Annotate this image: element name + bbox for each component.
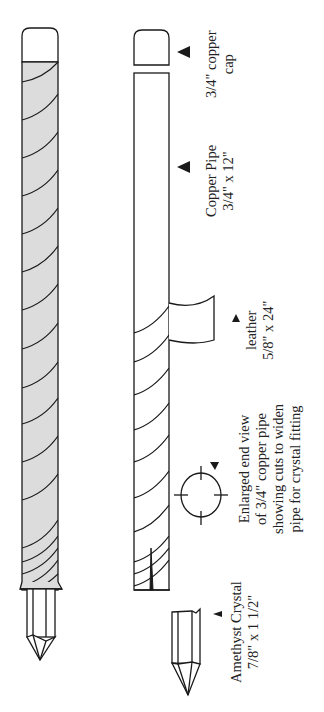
amethyst-crystal	[172, 609, 200, 695]
leather-strip	[169, 296, 214, 343]
leather-label-line1: leather	[243, 301, 260, 360]
assembled-cap	[22, 28, 58, 62]
crystal-pointer-arrow	[213, 611, 222, 617]
end-view-label-line3: showing cuts to widen	[270, 404, 287, 534]
crystal-label-line2: 7/8" x 1 1/2"	[245, 581, 262, 683]
cap-label-line2: cap	[220, 30, 237, 98]
end-view-label-line2: of 3/4" copper pipe	[253, 404, 270, 534]
copper-cap	[134, 30, 169, 65]
end-view-pointer-arrow	[210, 462, 219, 470]
cap-pointer-arrow	[177, 46, 190, 58]
leather-label-line2: 5/8" x 24"	[260, 301, 277, 360]
assembled-crystal	[27, 589, 55, 660]
leather-label: leather 5/8" x 24"	[243, 301, 277, 360]
end-view-label: Enlarged end view of 3/4" copper pipe sh…	[236, 404, 304, 534]
pipe-label: Copper Pipe 3/4" x 12"	[203, 145, 237, 217]
pipe-pointer-arrow	[177, 161, 190, 173]
crystal-label: Amethyst Crystal 7/8" x 1 1/2"	[228, 581, 262, 683]
leather-pointer-arrow	[232, 314, 240, 322]
assembled-wrapped-pipe	[22, 62, 58, 590]
cap-label: 3/4" copper cap	[203, 30, 237, 98]
pipe-label-line1: Copper Pipe	[203, 145, 220, 217]
exploded-view	[134, 30, 228, 695]
end-view-label-line1: Enlarged end view	[236, 404, 253, 534]
crystal-label-line1: Amethyst Crystal	[228, 581, 245, 683]
cap-label-line1: 3/4" copper	[203, 30, 220, 98]
pipe-end-view	[174, 466, 228, 525]
pipe-label-line2: 3/4" x 12"	[220, 145, 237, 217]
assembled-wand	[20, 28, 62, 660]
end-view-label-line4: pipe for crystal fitting	[287, 404, 304, 534]
